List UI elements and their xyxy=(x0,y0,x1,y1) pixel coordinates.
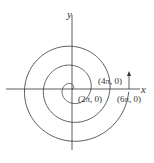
point-label-2pi: (2π, 0) xyxy=(78,94,102,104)
spiral-diagram: x y (2π, 0) (4π, 0) (6π, 0) xyxy=(0,0,154,163)
spiral-curve xyxy=(24,46,128,141)
point-label-6pi: (6π, 0) xyxy=(117,94,141,104)
y-axis-label: y xyxy=(66,8,72,20)
point-label-4pi: (4π, 0) xyxy=(98,76,122,86)
